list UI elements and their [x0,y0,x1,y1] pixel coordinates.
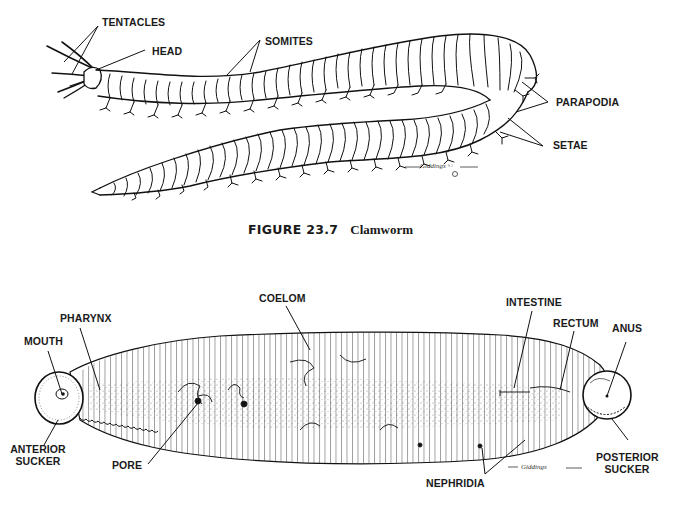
figure-caption: FIGURE 23.7Clamworm [248,222,413,238]
label-intestine: INTESTINE [506,296,562,308]
label-coelom: COELOM [259,292,306,304]
clamworm-drawing [47,34,539,200]
label-nephridia: NEPHRIDIA [426,477,485,489]
leech-signature: Giddings [521,463,547,471]
label-mouth: MOUTH [24,335,63,347]
label-posterior-sucker-line1: POSTERIOR [596,451,658,463]
leech-drawing [35,332,631,464]
label-somites: SOMITES [265,35,313,47]
label-anterior-sucker-line2: SUCKER [10,455,66,467]
clamworm-signature: Giddings © [420,162,453,170]
figure-title: Clamworm [350,222,413,237]
figure-number: FIGURE 23.7 [248,222,338,237]
label-parapodia: PARAPODIA [556,96,619,108]
label-head: HEAD [152,45,182,57]
label-rectum: RECTUM [553,317,599,329]
label-setae: SETAE [553,139,588,151]
label-posterior-sucker-line2: SUCKER [596,463,658,475]
label-tentacles: TENTACLES [102,16,165,28]
label-anterior-sucker: ANTERIOR SUCKER [10,443,66,467]
diagram-artwork [0,0,678,512]
label-posterior-sucker: POSTERIOR SUCKER [596,451,658,475]
label-anus: ANUS [612,322,642,334]
label-pharynx: PHARYNX [60,312,112,324]
label-pore: PORE [112,459,142,471]
label-anterior-sucker-line1: ANTERIOR [10,443,66,455]
